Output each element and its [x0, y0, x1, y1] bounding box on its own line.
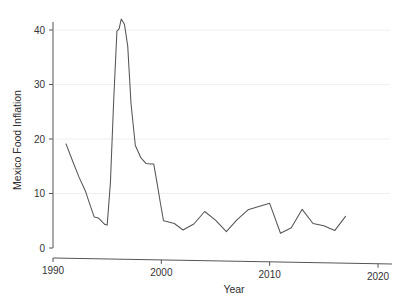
line-chart-plot: 0102030401990200020102020 Year Mexico Fo… [0, 0, 404, 303]
y-axis-title: Mexico Food Inflation [11, 90, 23, 190]
y-tick-label-0: 0 [39, 243, 45, 254]
ticks-group [49, 30, 378, 268]
y-tick-label-40: 40 [34, 25, 46, 36]
series-line-0 [66, 19, 346, 233]
x-tick-label-1990: 1990 [42, 265, 65, 276]
tick-labels-group: 0102030401990200020102020 [34, 25, 390, 282]
x-axis-line [53, 258, 392, 264]
x-tick-label-2010: 2010 [259, 269, 282, 280]
x-tick-label-2020: 2020 [367, 271, 390, 282]
y-tick-label-30: 30 [34, 79, 46, 90]
y-tick-label-20: 20 [34, 134, 46, 145]
chart-figure: 0102030401990200020102020 Year Mexico Fo… [0, 0, 404, 303]
gridlines-group [55, 30, 390, 194]
y-tick-label-10: 10 [34, 188, 46, 199]
x-axis-title: Year [223, 283, 245, 295]
x-tick-label-2000: 2000 [150, 267, 173, 278]
data-series-group [66, 19, 346, 233]
